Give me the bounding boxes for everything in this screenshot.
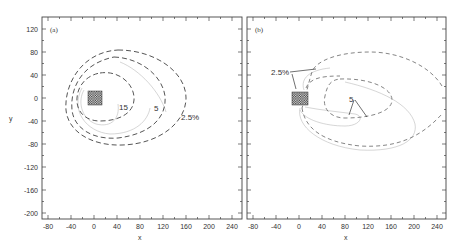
x-tick-label: 240 bbox=[431, 223, 443, 230]
x-tick-label: 40 bbox=[113, 223, 121, 230]
x-tick-label: 120 bbox=[362, 223, 374, 230]
x-tick-label: 40 bbox=[318, 223, 326, 230]
x-tick-label: -40 bbox=[66, 223, 76, 230]
contour-label-5: 5 bbox=[349, 95, 354, 104]
contour-2-5 bbox=[66, 50, 186, 145]
y-tick-label: -200 bbox=[24, 210, 38, 217]
axis-ticks: -80-400408012016020024012080400-40-80-12… bbox=[24, 17, 242, 230]
x-axis-title: x bbox=[344, 234, 348, 241]
x-tick-label: 240 bbox=[226, 223, 238, 230]
panel-b: -80-4004080120160200240 (b) x 2.5% bbox=[247, 17, 446, 241]
axis-ticks: -80-4004080120160200240 bbox=[247, 17, 446, 230]
x-tick-label: 80 bbox=[341, 223, 349, 230]
x-tick-label: 120 bbox=[157, 223, 169, 230]
x-axis-title: x bbox=[138, 234, 142, 241]
x-tick-label: 200 bbox=[203, 223, 215, 230]
contour-labels: 2.5% 5 bbox=[271, 68, 354, 104]
x-tick-label: 80 bbox=[136, 223, 144, 230]
x-tick-label: -80 bbox=[43, 223, 53, 230]
y-tick-label: 120 bbox=[26, 26, 38, 33]
contour-5 bbox=[324, 79, 392, 118]
figure: -80-400408012016020024012080400-40-80-12… bbox=[0, 0, 464, 247]
x-tick-label: 160 bbox=[385, 223, 397, 230]
plot-frame bbox=[42, 17, 242, 219]
contour-label-5: 5 bbox=[154, 104, 159, 113]
y-tick-label: -160 bbox=[24, 187, 38, 194]
source-block bbox=[88, 91, 102, 105]
y-tick-label: 40 bbox=[30, 72, 38, 79]
y-tick-label: 0 bbox=[34, 95, 38, 102]
y-tick-label: -80 bbox=[28, 141, 38, 148]
y-tick-label: -120 bbox=[24, 164, 38, 171]
y-tick-label: -40 bbox=[28, 118, 38, 125]
contour-15 bbox=[77, 73, 134, 121]
x-tick-label: 160 bbox=[180, 223, 192, 230]
contour-label-15: 15 bbox=[119, 103, 128, 112]
contour-5 bbox=[72, 57, 165, 138]
y-tick-label: 80 bbox=[30, 49, 38, 56]
faint-contours bbox=[300, 68, 416, 150]
contour-label-2-5: 2.5% bbox=[271, 68, 289, 77]
contour-2-5 bbox=[302, 52, 442, 146]
x-tick-label: -80 bbox=[248, 223, 258, 230]
contour-labels: 15 5 2.5% bbox=[119, 103, 199, 122]
source-block bbox=[292, 92, 308, 105]
x-tick-label: 0 bbox=[297, 223, 301, 230]
panel-label: (b) bbox=[255, 26, 264, 34]
panel-label: (a) bbox=[50, 26, 58, 34]
y-axis-title: y bbox=[9, 115, 13, 123]
x-tick-label: 0 bbox=[92, 223, 96, 230]
panel-a: -80-400408012016020024012080400-40-80-12… bbox=[9, 17, 242, 241]
x-tick-label: -40 bbox=[271, 223, 281, 230]
x-tick-label: 200 bbox=[408, 223, 420, 230]
contour-label-2-5: 2.5% bbox=[181, 113, 199, 122]
